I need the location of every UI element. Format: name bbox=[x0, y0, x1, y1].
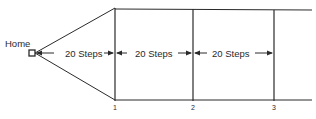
top-boundary-line bbox=[115, 9, 312, 10]
home-marker-icon bbox=[29, 50, 35, 56]
segment-label-3: 20 Steps bbox=[212, 48, 250, 59]
marker-label-2: 2 bbox=[191, 104, 195, 111]
step-diagram: Home 20 Steps 20 Steps 20 Steps 1 2 3 bbox=[0, 0, 316, 119]
upper-funnel-line bbox=[35, 8, 115, 53]
segment-label-2: 20 Steps bbox=[135, 48, 173, 59]
home-label: Home bbox=[5, 38, 30, 49]
segment-label-1: 20 Steps bbox=[65, 48, 103, 59]
marker-label-1: 1 bbox=[113, 104, 117, 111]
marker-label-3: 3 bbox=[272, 104, 276, 111]
lower-funnel-line bbox=[35, 53, 115, 100]
